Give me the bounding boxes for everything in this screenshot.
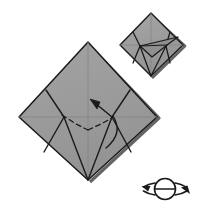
- origami-diagram-svg: [0, 0, 203, 211]
- turn-over-symbol: [142, 179, 191, 200]
- turn-over-left-wing-lower: [144, 191, 156, 195]
- origami-diagram-figure: [0, 0, 203, 211]
- result-step-diagram: [120, 13, 185, 78]
- turn-over-right-wing-lower: [175, 191, 187, 195]
